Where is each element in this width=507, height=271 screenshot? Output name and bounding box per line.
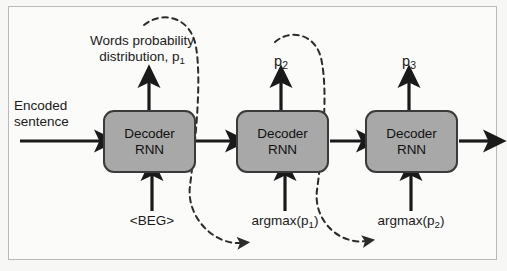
- p1-label-text: distribution, p: [99, 49, 179, 64]
- decoder-rnn-block-3-line1: Decoder: [386, 126, 436, 142]
- p3-output-label: p3: [383, 53, 435, 70]
- argmax-p1-label: argmax(p1): [229, 213, 341, 229]
- argmax-p1-subscript: 1: [309, 219, 314, 230]
- p2-label-text: p: [274, 53, 282, 69]
- decoder-rnn-block-2-line1: Decoder: [257, 126, 307, 142]
- beg-token-label: <BEG>: [104, 213, 200, 229]
- encoded-sentence-label-line2: sentence: [14, 114, 69, 130]
- words-probability-distribution-line1: Words probability: [66, 33, 218, 49]
- diagram-canvas: Decoder RNN Decoder RNN Decoder RNN Enco…: [0, 0, 507, 271]
- argmax-p2-label: argmax(p2): [355, 213, 467, 229]
- argmax-p1-text: argmax(p: [252, 213, 309, 228]
- decoder-rnn-block-1-line1: Decoder: [124, 126, 174, 142]
- encoded-sentence-label-line1: Encoded: [14, 98, 69, 114]
- decoder-rnn-block-2-line2: RNN: [268, 142, 297, 158]
- words-probability-distribution-label: Words probability distribution, p1: [66, 33, 218, 65]
- p1-label-subscript: 1: [179, 55, 184, 66]
- argmax-p2-subscript: 2: [435, 219, 440, 230]
- decoder-rnn-block-1-line2: RNN: [135, 142, 164, 158]
- argmax-p2-close: ): [440, 213, 445, 228]
- p2-output-label: p2: [255, 53, 307, 70]
- decoder-rnn-block-1: Decoder RNN: [103, 110, 196, 173]
- argmax-p2-text: argmax(p: [378, 213, 435, 228]
- decoder-rnn-block-3-line2: RNN: [397, 142, 426, 158]
- p2-label-subscript: 2: [282, 60, 288, 71]
- words-probability-distribution-line2: distribution, p1: [66, 49, 218, 65]
- p3-label-subscript: 3: [410, 60, 416, 71]
- decoder-rnn-block-2: Decoder RNN: [236, 110, 329, 173]
- encoded-sentence-label: Encoded sentence: [14, 98, 69, 130]
- argmax-p1-close: ): [314, 213, 319, 228]
- decoder-rnn-block-3: Decoder RNN: [365, 110, 458, 173]
- p3-label-text: p: [402, 53, 410, 69]
